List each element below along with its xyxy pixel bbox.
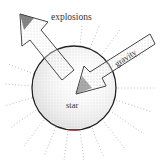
explosions-label: explosions xyxy=(51,12,92,22)
star-label: star xyxy=(66,100,78,110)
star-diagram: explosions gravity star xyxy=(0,0,160,162)
